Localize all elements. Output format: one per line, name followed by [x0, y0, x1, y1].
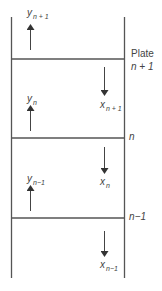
- liquid-subscript: n + 1: [106, 105, 122, 112]
- vapor-var: y: [27, 173, 32, 184]
- vapor-label-y-n-plus-1: yn + 1: [27, 8, 49, 18]
- plate-label-n-plus-1: n + 1: [131, 62, 154, 72]
- plate-label-n-minus-1: n−1: [129, 212, 146, 222]
- liquid-label-x-n-plus-1: xn + 1: [100, 100, 122, 110]
- vapor-var: y: [27, 93, 32, 104]
- vapor-var: y: [27, 7, 32, 18]
- vapor-subscript: n−1: [33, 179, 45, 186]
- plate-label-n: n: [129, 132, 135, 142]
- plate-heading: Plate: [131, 49, 154, 59]
- liquid-var: x: [100, 176, 105, 187]
- vapor-label-y-n: yn: [27, 94, 37, 104]
- liquid-var: x: [100, 259, 105, 270]
- column-diagram: [0, 0, 162, 291]
- liquid-label-x-n: xn: [100, 177, 110, 187]
- vapor-subscript: n: [33, 99, 37, 106]
- liquid-label-x-n-minus-1: xn−1: [100, 260, 118, 270]
- liquid-subscript: n−1: [106, 265, 118, 272]
- vapor-subscript: n + 1: [33, 13, 49, 20]
- liquid-subscript: n: [106, 182, 110, 189]
- liquid-var: x: [100, 99, 105, 110]
- vapor-label-y-n-minus-1: yn−1: [27, 174, 45, 184]
